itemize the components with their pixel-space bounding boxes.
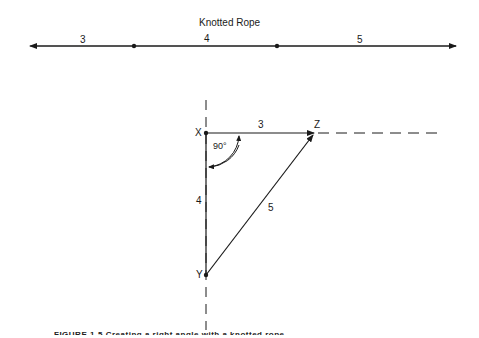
side-xy-label: 4 — [196, 196, 202, 206]
vertex-z-label: Z — [314, 120, 320, 130]
rope-segment-5-label: 5 — [357, 35, 363, 45]
right-triangle — [204, 131, 314, 277]
side-yz-label: 5 — [268, 203, 274, 213]
rope-title: Knotted Rope — [199, 18, 260, 28]
knotted-rope — [30, 44, 456, 48]
rope-segment-4-label: 4 — [204, 34, 210, 44]
side-yz — [206, 135, 313, 275]
point-x — [204, 131, 208, 135]
knot-2 — [275, 44, 279, 48]
point-y — [204, 273, 208, 277]
rope-segment-3-label: 3 — [80, 35, 86, 45]
diagram-canvas — [0, 0, 479, 338]
vertex-x-label: X — [195, 128, 202, 138]
side-xz-label: 3 — [258, 120, 264, 130]
vertex-y-label: Y — [196, 270, 203, 280]
knot-1 — [132, 44, 136, 48]
angle-label: 90° — [213, 141, 227, 151]
